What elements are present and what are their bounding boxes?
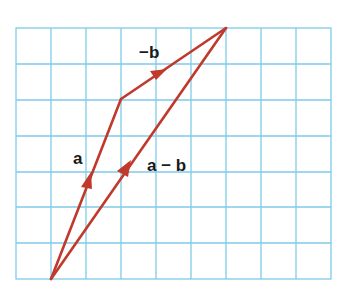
arrowhead-a-minus-b-icon [117,160,131,177]
label-a: a [73,149,83,168]
vector-diagram: a −b a − b [0,0,349,293]
label-a-minus-b: a − b [147,156,186,175]
label-neg-b: −b [139,43,159,62]
grid [16,28,331,279]
